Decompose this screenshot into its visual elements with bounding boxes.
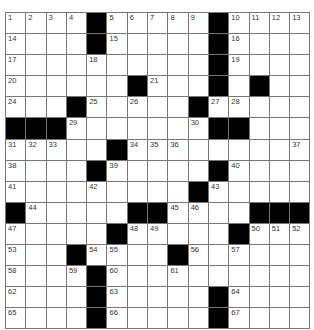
answer-cell[interactable]: [290, 55, 310, 76]
answer-cell[interactable]: [168, 76, 188, 97]
answer-cell[interactable]: 7: [148, 13, 168, 34]
answer-cell[interactable]: [209, 203, 229, 224]
answer-cell[interactable]: [290, 97, 310, 118]
answer-cell[interactable]: [189, 224, 209, 245]
answer-cell[interactable]: [67, 182, 87, 203]
answer-cell[interactable]: 43: [209, 182, 229, 203]
answer-cell[interactable]: 9: [189, 13, 209, 34]
answer-cell[interactable]: [270, 287, 290, 308]
answer-cell[interactable]: [26, 182, 46, 203]
answer-cell[interactable]: 56: [189, 245, 209, 266]
answer-cell[interactable]: 67: [229, 308, 249, 329]
answer-cell[interactable]: [148, 287, 168, 308]
answer-cell[interactable]: [270, 245, 290, 266]
answer-cell[interactable]: 30: [189, 118, 209, 139]
answer-cell[interactable]: [250, 118, 270, 139]
answer-cell[interactable]: [128, 287, 148, 308]
answer-cell[interactable]: [250, 266, 270, 287]
answer-cell[interactable]: [250, 287, 270, 308]
answer-cell[interactable]: [47, 308, 67, 329]
answer-cell[interactable]: [270, 161, 290, 182]
answer-cell[interactable]: 46: [189, 203, 209, 224]
answer-cell[interactable]: [47, 76, 67, 97]
answer-cell[interactable]: [270, 140, 290, 161]
answer-cell[interactable]: [290, 245, 310, 266]
answer-cell[interactable]: 32: [26, 140, 46, 161]
answer-cell[interactable]: [107, 97, 127, 118]
answer-cell[interactable]: 34: [128, 140, 148, 161]
answer-cell[interactable]: [270, 55, 290, 76]
answer-cell[interactable]: 33: [47, 140, 67, 161]
answer-cell[interactable]: [209, 224, 229, 245]
answer-cell[interactable]: 28: [229, 97, 249, 118]
answer-cell[interactable]: [148, 266, 168, 287]
answer-cell[interactable]: 37: [290, 140, 310, 161]
answer-cell[interactable]: [148, 34, 168, 55]
answer-cell[interactable]: [250, 308, 270, 329]
answer-cell[interactable]: 5: [107, 13, 127, 34]
answer-cell[interactable]: 57: [229, 245, 249, 266]
answer-cell[interactable]: 64: [229, 287, 249, 308]
answer-cell[interactable]: [47, 34, 67, 55]
answer-cell[interactable]: 48: [128, 224, 148, 245]
answer-cell[interactable]: [148, 245, 168, 266]
answer-cell[interactable]: [189, 161, 209, 182]
answer-cell[interactable]: 11: [250, 13, 270, 34]
answer-cell[interactable]: 35: [148, 140, 168, 161]
answer-cell[interactable]: [250, 245, 270, 266]
answer-cell[interactable]: 24: [6, 97, 26, 118]
answer-cell[interactable]: [47, 182, 67, 203]
answer-cell[interactable]: [168, 34, 188, 55]
answer-cell[interactable]: [148, 55, 168, 76]
answer-cell[interactable]: [168, 97, 188, 118]
answer-cell[interactable]: [128, 161, 148, 182]
answer-cell[interactable]: 14: [6, 34, 26, 55]
answer-cell[interactable]: 63: [107, 287, 127, 308]
answer-cell[interactable]: [26, 266, 46, 287]
answer-cell[interactable]: [290, 34, 310, 55]
answer-cell[interactable]: [270, 308, 290, 329]
answer-cell[interactable]: [148, 182, 168, 203]
answer-cell[interactable]: 49: [148, 224, 168, 245]
answer-cell[interactable]: [128, 266, 148, 287]
answer-cell[interactable]: 2: [26, 13, 46, 34]
answer-cell[interactable]: 38: [6, 161, 26, 182]
answer-cell[interactable]: 31: [6, 140, 26, 161]
answer-cell[interactable]: 39: [107, 161, 127, 182]
answer-cell[interactable]: [87, 118, 107, 139]
answer-cell[interactable]: [128, 34, 148, 55]
answer-cell[interactable]: [67, 34, 87, 55]
answer-cell[interactable]: 58: [6, 266, 26, 287]
answer-cell[interactable]: [26, 97, 46, 118]
answer-cell[interactable]: 25: [87, 97, 107, 118]
answer-cell[interactable]: 36: [168, 140, 188, 161]
answer-cell[interactable]: [67, 140, 87, 161]
answer-cell[interactable]: 47: [6, 224, 26, 245]
answer-cell[interactable]: [168, 161, 188, 182]
answer-cell[interactable]: [67, 76, 87, 97]
answer-cell[interactable]: 17: [6, 55, 26, 76]
answer-cell[interactable]: 10: [229, 13, 249, 34]
answer-cell[interactable]: 61: [168, 266, 188, 287]
answer-cell[interactable]: 54: [87, 245, 107, 266]
answer-cell[interactable]: [189, 34, 209, 55]
answer-cell[interactable]: 20: [6, 76, 26, 97]
answer-cell[interactable]: 27: [209, 97, 229, 118]
answer-cell[interactable]: 4: [67, 13, 87, 34]
answer-cell[interactable]: [168, 55, 188, 76]
answer-cell[interactable]: [67, 55, 87, 76]
answer-cell[interactable]: [229, 76, 249, 97]
answer-cell[interactable]: [209, 266, 229, 287]
answer-cell[interactable]: [67, 308, 87, 329]
answer-cell[interactable]: [209, 245, 229, 266]
answer-cell[interactable]: [26, 34, 46, 55]
answer-cell[interactable]: [290, 266, 310, 287]
answer-cell[interactable]: 29: [67, 118, 87, 139]
answer-cell[interactable]: 3: [47, 13, 67, 34]
answer-cell[interactable]: [168, 182, 188, 203]
answer-cell[interactable]: 1: [6, 13, 26, 34]
answer-cell[interactable]: [189, 140, 209, 161]
answer-cell[interactable]: 55: [107, 245, 127, 266]
answer-cell[interactable]: [47, 287, 67, 308]
answer-cell[interactable]: 8: [168, 13, 188, 34]
